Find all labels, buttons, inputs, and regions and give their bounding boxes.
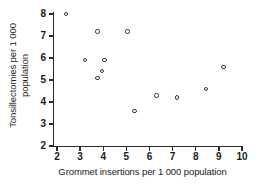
data-point bbox=[100, 69, 104, 73]
data-point bbox=[64, 12, 68, 16]
x-tick-label-5: 5 bbox=[118, 151, 134, 162]
y-tick-4 bbox=[49, 101, 53, 102]
x-tick-label-9: 9 bbox=[211, 151, 227, 162]
x-tick-label-6: 6 bbox=[142, 151, 158, 162]
data-point bbox=[154, 93, 158, 97]
x-tick-label-8: 8 bbox=[188, 151, 204, 162]
x-tick-label-10: 10 bbox=[234, 151, 250, 162]
y-tick-label-5: 5 bbox=[34, 74, 46, 85]
y-tick-label-3: 3 bbox=[34, 118, 46, 129]
y-tick-label-8: 8 bbox=[34, 8, 46, 19]
scatter-plot-figure: Tonsillectomies per 1 000 population Gro… bbox=[0, 0, 260, 189]
y-axis-title: Tonsillectomies per 1 000 population bbox=[0, 0, 36, 150]
y-tick-3 bbox=[49, 123, 53, 124]
y-tick-2 bbox=[49, 145, 53, 146]
data-point bbox=[95, 76, 99, 80]
data-point bbox=[221, 65, 225, 69]
y-tick-label-2: 2 bbox=[34, 140, 46, 151]
x-tick-label-2: 2 bbox=[49, 151, 65, 162]
data-point bbox=[175, 95, 179, 99]
y-axis-title-line2: population bbox=[18, 23, 30, 128]
y-axis-title-line1: Tonsillectomies per 1 000 bbox=[7, 23, 19, 128]
data-point bbox=[125, 29, 129, 33]
y-tick-label-6: 6 bbox=[34, 52, 46, 63]
x-tick-label-7: 7 bbox=[165, 151, 181, 162]
data-point bbox=[95, 29, 99, 33]
y-tick-label-4: 4 bbox=[34, 96, 46, 107]
x-axis-title: Grommet insertions per 1 000 population bbox=[30, 166, 255, 177]
data-point bbox=[204, 87, 208, 91]
x-tick-label-4: 4 bbox=[95, 151, 111, 162]
y-tick-8 bbox=[49, 13, 53, 14]
data-point bbox=[132, 109, 136, 113]
y-axis-line bbox=[53, 12, 54, 147]
y-tick-6 bbox=[49, 57, 53, 58]
x-tick-label-3: 3 bbox=[72, 151, 88, 162]
y-tick-7 bbox=[49, 35, 53, 36]
data-point bbox=[83, 58, 87, 62]
data-point bbox=[102, 58, 106, 62]
y-tick-5 bbox=[49, 79, 53, 80]
y-tick-label-7: 7 bbox=[34, 30, 46, 41]
